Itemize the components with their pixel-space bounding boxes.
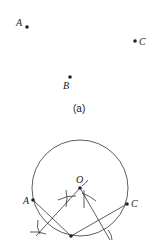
arc-mark-2 — [66, 190, 67, 207]
bisector-ab — [36, 188, 80, 236]
point-b-b — [69, 234, 73, 238]
point-o — [78, 186, 82, 190]
segment-bc — [71, 204, 127, 236]
point-b — [68, 75, 72, 79]
point-a-b — [31, 198, 35, 202]
diagram-canvas: A C B (a) O A C — [0, 0, 153, 240]
label-a-b: A — [22, 195, 30, 206]
caption-a: (a) — [73, 103, 85, 114]
point-a — [25, 25, 29, 29]
arc-mark-7 — [108, 230, 112, 240]
point-c-b — [125, 202, 129, 206]
panel-b — [30, 140, 128, 240]
label-b: B — [63, 80, 69, 91]
label-c-b: C — [131, 198, 138, 209]
panel-a: A C B (a) — [15, 17, 146, 114]
label-a: A — [15, 17, 23, 28]
label-c: C — [139, 36, 146, 47]
label-o: O — [76, 174, 83, 185]
point-c — [133, 39, 137, 43]
bisector-bc — [80, 188, 110, 240]
